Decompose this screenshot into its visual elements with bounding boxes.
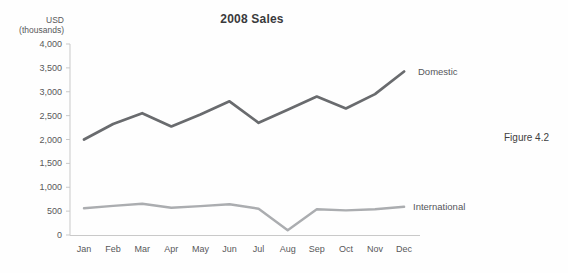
y-tick-label: 2,000	[39, 135, 62, 145]
x-tick-label: Jan	[77, 244, 92, 254]
domestic-line	[84, 72, 404, 140]
figure-page: 2008 Sales USD (thousands) 05001,0001,50…	[0, 0, 568, 273]
y-tick-label: 3,500	[39, 63, 62, 73]
figure-caption: Figure 4.2	[504, 132, 549, 143]
international-line	[84, 204, 404, 231]
y-tick-label: 2,500	[39, 111, 62, 121]
x-tick-label: Dec	[396, 244, 413, 254]
series-label-domestic: Domestic	[418, 66, 458, 77]
y-tick-label: 500	[47, 206, 62, 216]
x-tick-label: Aug	[280, 244, 296, 254]
x-tick-label: Nov	[367, 244, 384, 254]
y-tick-label: 4,000	[39, 39, 62, 49]
series-label-international: International	[413, 201, 465, 212]
x-tick-label: Jul	[253, 244, 265, 254]
y-tick-label: 3,000	[39, 87, 62, 97]
x-tick-label: Feb	[105, 244, 121, 254]
plot-area: 05001,0001,5002,0002,5003,0003,5004,000J…	[0, 0, 568, 273]
x-tick-label: May	[192, 244, 210, 254]
y-tick-label: 1,500	[39, 158, 62, 168]
x-tick-label: Mar	[134, 244, 150, 254]
x-tick-label: Oct	[339, 244, 354, 254]
x-tick-label: Jun	[222, 244, 237, 254]
y-tick-label: 1,000	[39, 182, 62, 192]
x-tick-label: Sep	[309, 244, 325, 254]
x-tick-label: Apr	[164, 244, 178, 254]
y-tick-label: 0	[57, 230, 62, 240]
